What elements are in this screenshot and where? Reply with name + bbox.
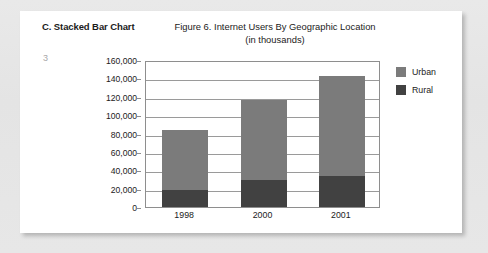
y-tick-mark [137, 208, 141, 209]
y-tick-mark [137, 153, 141, 154]
bar-group[interactable] [162, 60, 208, 207]
bar-segment-urban[interactable] [162, 130, 208, 191]
y-tick-mark [137, 135, 141, 136]
bar-segment-rural[interactable] [241, 180, 287, 207]
y-tick-label: 20,000 [111, 185, 137, 195]
y-tick-mark [137, 61, 141, 62]
y-tick-label: 80,000 [111, 130, 137, 140]
y-tick-mark [137, 116, 141, 117]
bar-segment-rural[interactable] [319, 176, 365, 207]
y-tick-label: 100,000 [106, 111, 137, 121]
chart-subtitle: (in thousands) [130, 33, 420, 46]
y-tick-label: 60,000 [111, 148, 137, 158]
x-tick-label: 1998 [161, 210, 207, 220]
chart-legend: UrbanRural [396, 63, 458, 99]
x-axis: 199820002001 [145, 210, 380, 224]
x-tick-label: 2001 [318, 210, 364, 220]
section-heading: C. Stacked Bar Chart [42, 21, 135, 32]
y-tick-mark [137, 171, 141, 172]
legend-label: Urban [412, 67, 436, 77]
x-tick-label: 2000 [240, 210, 286, 220]
legend-item-rural[interactable]: Rural [396, 81, 458, 99]
plot-area [145, 61, 380, 208]
y-tick-mark [137, 98, 141, 99]
legend-swatch-icon [396, 85, 406, 95]
y-tick-mark [137, 190, 141, 191]
legend-swatch-icon [396, 67, 406, 77]
bar-segment-urban[interactable] [241, 100, 287, 181]
legend-label: Rural [412, 85, 433, 95]
legend-item-urban[interactable]: Urban [396, 63, 458, 81]
chart-title: Figure 6. Internet Users By Geographic L… [130, 20, 420, 33]
y-tick-mark [137, 79, 141, 80]
y-tick-label: 40,000 [111, 166, 137, 176]
bar-group[interactable] [319, 60, 365, 207]
y-tick-label: 140,000 [106, 74, 137, 84]
page-number-marker: 3 [43, 53, 48, 63]
y-axis: 160,000140,000120,000100,00080,00060,000… [96, 61, 141, 208]
y-tick-label: 160,000 [106, 56, 137, 66]
bar-segment-urban[interactable] [319, 76, 365, 176]
bar-segment-rural[interactable] [162, 190, 208, 207]
bar-group[interactable] [241, 60, 287, 207]
y-tick-label: 120,000 [106, 93, 137, 103]
